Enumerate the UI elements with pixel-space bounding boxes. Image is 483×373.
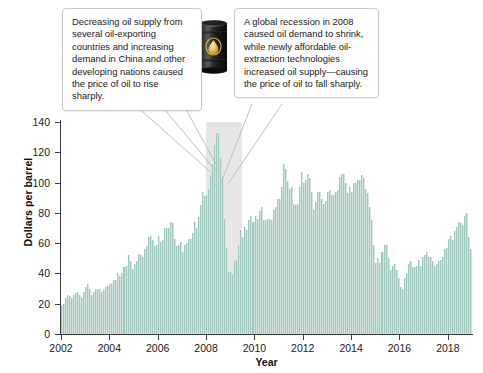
x-axis-tick-label: 2002 xyxy=(41,342,81,354)
x-axis-tick xyxy=(158,335,159,340)
y-axis-tick xyxy=(55,273,61,274)
y-axis-tick-label: 140 xyxy=(16,117,50,127)
y-axis-tick xyxy=(55,243,61,244)
x-axis-tick xyxy=(206,335,207,340)
x-axis-tick-label: 2008 xyxy=(186,342,226,354)
y-axis-tick-label: 40 xyxy=(16,268,50,278)
x-axis-tick-label: 2014 xyxy=(331,342,371,354)
y-axis-tick xyxy=(55,122,61,123)
y-axis-tick xyxy=(55,213,61,214)
y-axis-title: Dollars per barrel xyxy=(22,142,34,262)
x-axis-tick xyxy=(109,335,110,340)
x-axis-title: Year xyxy=(61,356,472,368)
x-axis-tick xyxy=(254,335,255,340)
plot-area xyxy=(61,122,472,334)
recession-callout-text: A global recession in 2008 caused oil de… xyxy=(244,16,368,89)
x-axis-tick xyxy=(303,335,304,340)
supply-demand-callout-text: Decreasing oil supply from several oil-e… xyxy=(72,16,185,101)
x-axis-tick-label: 2018 xyxy=(428,342,468,354)
y-axis-tick xyxy=(55,304,61,305)
x-axis-tick-label: 2004 xyxy=(89,342,129,354)
x-axis-tick-label: 2010 xyxy=(234,342,274,354)
x-axis-tick xyxy=(61,335,62,340)
bar-series-crude-oil-price xyxy=(61,122,472,334)
y-axis-tick xyxy=(55,183,61,184)
x-axis-tick xyxy=(351,335,352,340)
y-axis-tick-label: 20 xyxy=(16,299,50,309)
x-axis-tick xyxy=(399,335,400,340)
oil-price-figure: 020406080100120140 200220042006200820102… xyxy=(0,0,483,373)
x-axis-tick-label: 2012 xyxy=(283,342,323,354)
x-axis-tick xyxy=(448,335,449,340)
recession-callout: A global recession in 2008 caused oil de… xyxy=(234,8,379,98)
bar xyxy=(470,249,472,334)
x-axis-tick-label: 2006 xyxy=(138,342,178,354)
y-axis-tick xyxy=(55,152,61,153)
supply-demand-callout: Decreasing oil supply from several oil-e… xyxy=(62,8,202,111)
x-axis-line xyxy=(60,334,473,335)
y-axis-tick-label: 0 xyxy=(16,329,50,339)
x-axis-tick-label: 2016 xyxy=(379,342,419,354)
